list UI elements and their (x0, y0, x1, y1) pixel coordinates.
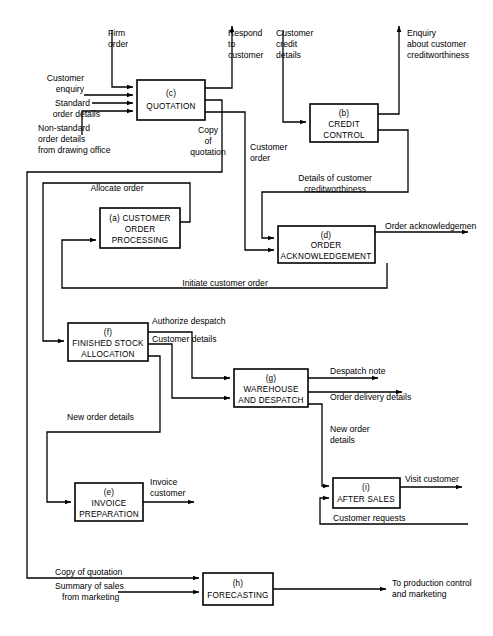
label-order-delivery-details: Order delivery details (330, 392, 411, 402)
process-e-id: (e) (104, 488, 115, 497)
process-c-id: (c) (166, 89, 176, 98)
label-despatch-note: Despatch note (330, 366, 386, 376)
label-customer-credit-3: details (276, 50, 301, 60)
data-flow-diagram: (c) QUOTATION (b) CREDIT CONTROL (a) CUS… (0, 0, 493, 636)
process-i-label: AFTER SALES (337, 495, 395, 504)
label-enquiry-1: Enquiry (407, 28, 437, 38)
label-nonstandard-3: from drawing office (38, 145, 111, 155)
process-d-order-acknowledgement[interactable]: (d) ORDER ACKNOWLEDGEMENT (278, 226, 375, 263)
label-customer-credit-1: Customer (276, 28, 313, 38)
label-initiate-customer-order: Initiate customer order (182, 278, 268, 288)
label-customer-order-1: Customer (250, 142, 287, 152)
process-d-label-1: ORDER (311, 241, 342, 250)
label-to-production-1: To production control (392, 578, 472, 588)
flow-enquiry-creditworthiness (378, 26, 399, 114)
label-copy-quote-1: Copy (198, 125, 219, 135)
process-b-id: (b) (339, 109, 350, 118)
process-f-id: (f) (104, 328, 112, 337)
label-invoice-2: customer (150, 488, 185, 498)
label-standard-order-1: Standard (55, 98, 90, 108)
process-b-label-1: CREDIT (328, 120, 360, 129)
label-customer-details: Customer details (152, 334, 216, 344)
process-i-id: (i) (362, 483, 370, 492)
label-new-order-2: details (330, 435, 355, 445)
process-e-label-1: INVOICE (91, 499, 126, 508)
label-new-order-details-invoice: New order details (67, 412, 134, 422)
label-visit-customer: Visit customer (405, 474, 459, 484)
label-copy-quote-2: of (204, 136, 212, 146)
process-i-after-sales[interactable]: (i) AFTER SALES (333, 478, 400, 508)
process-a-label-1: ORDER (125, 225, 156, 234)
label-customer-credit-2: credit (276, 39, 298, 49)
process-a-customer-order-processing[interactable]: (a) CUSTOMER ORDER PROCESSING (100, 208, 180, 248)
process-b-credit-control[interactable]: (b) CREDIT CONTROL (310, 104, 378, 142)
process-a-id-label: (a) CUSTOMER (109, 214, 170, 223)
label-details-cw-1: Details of customer (298, 173, 372, 183)
process-f-label-1: FINISHED STOCK (72, 339, 144, 348)
flow-new-order-details-invoice (47, 356, 160, 502)
process-c-quotation[interactable]: (c) QUOTATION (137, 80, 205, 120)
label-respond-2: to (228, 39, 235, 49)
process-a-label-2: PROCESSING (112, 236, 169, 245)
label-nonstandard-1: Non-standard (38, 123, 90, 133)
process-g-warehouse-and-despatch[interactable]: (g) WAREHOUSE AND DESPATCH (234, 369, 308, 407)
process-h-label: FORECASTING (207, 591, 268, 600)
process-f-label-2: ALLOCATION (81, 350, 134, 359)
label-invoice-1: Invoice (150, 477, 177, 487)
process-d-label-2: ACKNOWLEDGEMENT (281, 252, 372, 261)
label-firm-order-1: Firm (108, 28, 125, 38)
label-customer-enquiry-1: Customer (47, 73, 84, 83)
label-new-order-1: New order (330, 424, 370, 434)
process-c-label: QUOTATION (146, 102, 195, 111)
process-g-id: (g) (266, 374, 277, 383)
label-copy-quotation-h: Copy of quotation (55, 567, 123, 577)
label-nonstandard-2: order details (38, 134, 85, 144)
label-standard-order-2: order details (53, 109, 100, 119)
label-copy-quote-3: quotation (190, 147, 226, 157)
diagram-canvas: (c) QUOTATION (b) CREDIT CONTROL (a) CUS… (0, 0, 493, 636)
label-enquiry-2: about customer (407, 39, 466, 49)
label-enquiry-3: creditworthiness (407, 50, 469, 60)
process-h-id: (h) (233, 579, 244, 588)
process-h-forecasting[interactable]: (h) FORECASTING (203, 573, 273, 605)
label-customer-order-2: order (250, 153, 270, 163)
label-customer-enquiry-2: enquiry (56, 84, 85, 94)
label-customer-requests: Customer requests (333, 513, 406, 523)
label-authorize-despatch: Authorize despatch (152, 316, 226, 326)
label-allocate-order: Allocate order (90, 183, 143, 193)
process-d-id: (d) (321, 231, 332, 240)
process-g-label-2: AND DESPATCH (238, 396, 303, 405)
label-respond-1: Respond (228, 28, 263, 38)
process-boxes: (c) QUOTATION (b) CREDIT CONTROL (a) CUS… (68, 80, 400, 605)
label-summary-1: Summary of sales (55, 581, 124, 591)
process-f-finished-stock-allocation[interactable]: (f) FINISHED STOCK ALLOCATION (68, 323, 148, 361)
label-order-acknowledgement: Order acknowledgemen (385, 221, 476, 231)
label-firm-order-2: order (108, 39, 128, 49)
label-to-production-2: and marketing (392, 589, 447, 599)
process-b-label-2: CONTROL (323, 131, 365, 140)
process-g-label-1: WAREHOUSE (243, 385, 299, 394)
process-e-label-2: PREPARATION (79, 510, 139, 519)
label-details-cw-2: creditworthiness (304, 184, 366, 194)
label-summary-2: from marketing (62, 592, 120, 602)
label-respond-3: customer (228, 50, 263, 60)
flow-new-order-details-aftersales (308, 404, 329, 486)
process-e-invoice-preparation[interactable]: (e) INVOICE PREPARATION (75, 483, 143, 521)
